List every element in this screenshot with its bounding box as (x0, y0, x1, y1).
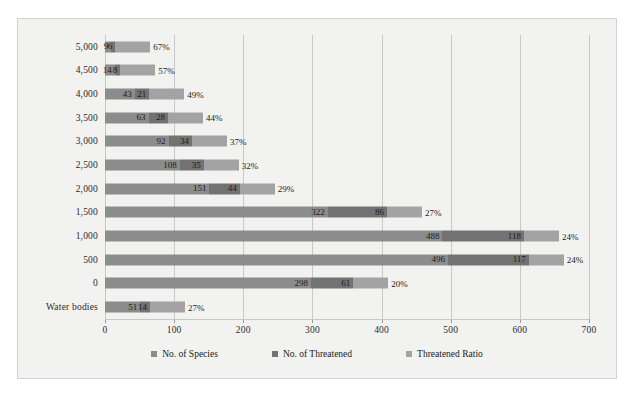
bar-segment-species[interactable]: 51 (105, 302, 140, 313)
bar-segment-ratio[interactable] (120, 65, 155, 76)
bar-segment-species[interactable]: 496 (105, 254, 448, 265)
y-axis-label: 3,000 (76, 136, 98, 146)
x-axis-label: 200 (223, 325, 263, 335)
bar-value-species: 496 (431, 255, 445, 264)
y-axis-label: 2,500 (76, 160, 98, 170)
bar-value-ratio: 27% (188, 302, 205, 312)
legend-item[interactable]: No. of Threatened (272, 349, 352, 359)
bar-value-ratio: 29% (278, 184, 295, 194)
chart-row: 02986120% (105, 272, 589, 296)
bar-segment-ratio[interactable] (192, 136, 227, 147)
bar-value-threatened: 61 (341, 279, 350, 288)
bar-segment-species[interactable]: 92 (105, 136, 169, 147)
y-axis-label: 4,500 (76, 65, 98, 75)
bar-segment-species[interactable]: 151 (105, 183, 209, 194)
bar-segment-ratio[interactable] (353, 278, 388, 289)
bar-value-species: 43 (123, 90, 132, 99)
bar-value-threatened: 118 (508, 232, 521, 241)
legend-swatch-icon (151, 351, 157, 357)
bar-value-species: 488 (426, 232, 440, 241)
y-axis-label: 500 (83, 255, 98, 265)
bar-value-ratio: 49% (187, 89, 204, 99)
chart-row: 3,000923437% (105, 130, 589, 154)
bar-segment-species[interactable]: 322 (105, 207, 328, 218)
bar-value-ratio: 37% (230, 136, 247, 146)
chart-row: 3,500632844% (105, 106, 589, 130)
chart-row: 4,000432149% (105, 82, 589, 106)
chart-row: 5,0009667% (105, 35, 589, 59)
y-axis-label: 4,000 (76, 89, 98, 99)
x-axis-label: 500 (431, 325, 471, 335)
legend-label: No. of Threatened (283, 349, 352, 359)
bar-segment-threatened[interactable]: 118 (442, 231, 524, 242)
x-axis-label: 0 (85, 325, 125, 335)
bar-segment-ratio[interactable] (529, 254, 564, 265)
y-axis-label: 5,000 (76, 42, 98, 52)
chart-row: 4,50014857% (105, 59, 589, 83)
bar-value-threatened: 35 (192, 161, 201, 170)
bar-value-species: 322 (311, 208, 325, 217)
chart-row: 1,5003228627% (105, 201, 589, 225)
gridline (589, 35, 590, 319)
bar-segment-threatened[interactable]: 44 (209, 183, 239, 194)
bar-value-species: 63 (137, 113, 146, 122)
bar-segment-ratio[interactable] (240, 183, 275, 194)
bar-segment-species[interactable]: 298 (105, 278, 311, 289)
bar-segment-threatened[interactable]: 14 (140, 302, 150, 313)
bar-segment-species[interactable]: 108 (105, 160, 180, 171)
bar-value-ratio: 27% (425, 207, 442, 217)
bar-value-threatened: 14 (138, 303, 147, 312)
bar-segment-threatened[interactable]: 34 (169, 136, 193, 147)
bar-value-threatened: 8 (113, 66, 118, 75)
bar-segment-threatened[interactable]: 86 (328, 207, 387, 218)
bar-value-ratio: 57% (158, 65, 175, 75)
chart-row: Water bodies511427% (105, 295, 589, 319)
bar-value-threatened: 117 (513, 255, 526, 264)
bar-segment-threatened[interactable]: 61 (311, 278, 353, 289)
bar-value-ratio: 24% (562, 231, 579, 241)
x-axis-line (105, 319, 589, 320)
y-axis-label: 1,000 (76, 231, 98, 241)
bar-value-threatened: 34 (180, 137, 189, 146)
chart-legend: No. of SpeciesNo. of ThreatenedThreatene… (18, 349, 616, 359)
bar-value-threatened: 28 (156, 113, 165, 122)
legend-swatch-icon (406, 351, 412, 357)
bar-segment-ratio[interactable] (150, 302, 185, 313)
bar-segment-ratio[interactable] (115, 41, 150, 52)
bar-value-species: 92 (157, 137, 166, 146)
bar-segment-ratio[interactable] (149, 89, 184, 100)
bar-value-threatened: 44 (228, 184, 237, 193)
bar-segment-species[interactable]: 43 (105, 89, 135, 100)
bar-value-species: 151 (193, 184, 207, 193)
bar-segment-ratio[interactable] (387, 207, 422, 218)
bar-value-ratio: 20% (391, 278, 408, 288)
bar-segment-threatened[interactable]: 21 (135, 89, 150, 100)
bar-value-ratio: 24% (567, 255, 584, 265)
bar-value-species: 298 (295, 279, 309, 288)
chart-row: 2,5001083532% (105, 153, 589, 177)
x-axis-label: 100 (154, 325, 194, 335)
bar-value-species: 14 (103, 66, 112, 75)
x-axis-tick (589, 319, 590, 323)
bar-segment-threatened[interactable]: 28 (149, 112, 168, 123)
y-axis-label: 3,500 (76, 113, 98, 123)
bar-value-ratio: 32% (242, 160, 259, 170)
legend-item[interactable]: Threatened Ratio (406, 349, 483, 359)
plot-area: 5,0009667%4,50014857%4,000432149%3,50063… (105, 35, 589, 319)
chart-row: 1,00048811824% (105, 224, 589, 248)
legend-label: No. of Species (162, 349, 218, 359)
legend-item[interactable]: No. of Species (151, 349, 218, 359)
bar-segment-ratio[interactable] (168, 112, 203, 123)
y-axis-label: 2,000 (76, 184, 98, 194)
bar-value-species: 108 (163, 161, 177, 170)
bar-segment-ratio[interactable] (524, 231, 559, 242)
chart-row: 50049611724% (105, 248, 589, 272)
y-axis-label: Water bodies (46, 302, 98, 312)
chart-container: 5,0009667%4,50014857%4,000432149%3,50063… (17, 18, 617, 379)
bar-segment-species[interactable]: 488 (105, 231, 442, 242)
bar-segment-ratio[interactable] (204, 160, 239, 171)
bar-segment-threatened[interactable]: 35 (180, 160, 204, 171)
bar-segment-threatened[interactable]: 117 (448, 254, 529, 265)
bar-segment-species[interactable]: 63 (105, 112, 149, 123)
bar-value-ratio: 44% (206, 113, 223, 123)
